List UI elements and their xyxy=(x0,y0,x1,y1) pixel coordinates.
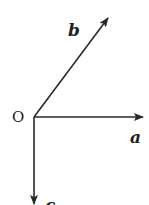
vector-c-label: c xyxy=(45,195,56,205)
vector-diagram: O a b c xyxy=(0,0,149,205)
origin-label: O xyxy=(12,108,24,126)
vector-b-label: b xyxy=(68,20,80,40)
vector-a-label: a xyxy=(130,127,141,147)
